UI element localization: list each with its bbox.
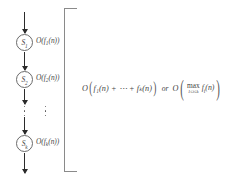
arrow-out-of-sk [24, 153, 25, 173]
cost-label-s1-tail: (n)) [48, 36, 59, 45]
arrow-s2-to-dots [24, 89, 25, 104]
cost-label-s2-tail: (n)) [48, 73, 59, 82]
complexity-figure: S1 O(f1(n)) S2 O(f2(n)) Sk O(fk(n)) [0, 0, 234, 186]
state-node-s2-subscript: 2 [25, 80, 27, 86]
ellipsis-dot [45, 115, 46, 116]
state-node-sk-subscript: k [25, 144, 27, 150]
state-node-s2: S2 [16, 71, 33, 88]
max-complexity-group: O( max 1≤i≤k fi(n)) [172, 82, 222, 95]
ellipsis-dot [24, 110, 25, 111]
big-o-symbol-max: O [172, 84, 178, 93]
ellipsis-dot [45, 110, 46, 111]
cost-label-s1-head: O(f [36, 36, 46, 45]
cost-label-sk-tail: (n)) [48, 137, 59, 146]
arrow-into-s1 [24, 12, 25, 33]
max-operator: max 1≤i≤k [187, 82, 200, 95]
or-separator: or [162, 84, 169, 93]
vertical-ellipsis-nodes [24, 106, 25, 116]
cost-label-s2: O(f2(n)) [36, 73, 60, 83]
cost-label-sk-head: O(f [36, 137, 46, 146]
sum-of-costs: f₁(n) + ⋯ + fₖ(n) [94, 83, 152, 93]
vertical-ellipsis-costs [45, 106, 46, 116]
state-node-s1: S1 [16, 34, 33, 51]
max-argument: fi(n) [202, 83, 215, 94]
cost-label-sk: O(fk(n)) [36, 137, 59, 147]
ellipsis-dot [24, 115, 25, 116]
state-chain: S1 O(f1(n)) S2 O(f2(n)) Sk O(fk(n)) [0, 0, 62, 186]
total-complexity-expression: O(f₁(n) + ⋯ + fₖ(n)) or O( max 1≤i≤k fi(… [82, 82, 222, 95]
cost-label-s1: O(f1(n)) [36, 36, 60, 46]
state-node-s1-subscript: 1 [25, 43, 27, 49]
big-o-symbol-sum: O [82, 84, 88, 93]
arrow-dots-to-sk [24, 117, 25, 134]
max-operator-range: 1≤i≤k [188, 90, 199, 95]
ellipsis-dot [45, 106, 46, 107]
ellipsis-dot [24, 106, 25, 107]
max-argument-tail: (n) [205, 83, 214, 92]
cost-label-s2-head: O(f [36, 73, 46, 82]
arrow-s1-to-s2 [24, 52, 25, 70]
grouping-bracket [64, 8, 77, 172]
state-node-sk: Sk [16, 135, 33, 152]
